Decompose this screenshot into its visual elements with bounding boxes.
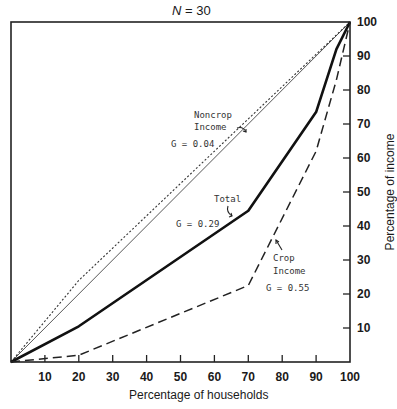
y-tick-label: 30 <box>357 254 370 266</box>
crop-gini: G = 0.55 <box>266 283 309 293</box>
x-tick-label: 10 <box>30 370 60 384</box>
y-tick-label: 60 <box>357 152 370 164</box>
x-tick-label: 80 <box>267 370 297 384</box>
series-lines <box>11 22 350 362</box>
y-tick-label: 20 <box>357 288 370 300</box>
y-tick-label: 70 <box>357 118 370 130</box>
x-tick-label: 70 <box>233 370 263 384</box>
crop-label-line1: Crop <box>273 253 295 263</box>
y-tick-label: 90 <box>357 50 370 62</box>
x-tick-label: 30 <box>98 370 128 384</box>
y-tick-label: 40 <box>357 220 370 232</box>
x-tick-label: 50 <box>166 370 196 384</box>
y-tick-label: 50 <box>357 186 370 198</box>
y-tick-label: 80 <box>357 84 370 96</box>
y-tick-label: 10 <box>357 322 370 334</box>
total-gini: G = 0.29 <box>176 219 219 229</box>
noncrop-label-line1: Noncrop <box>194 110 232 120</box>
total-label: Total <box>214 194 241 204</box>
y-axis-label: Percentage of income <box>383 134 397 251</box>
series-equality-line <box>11 22 350 362</box>
noncrop-gini: G = 0.04 <box>171 139 214 149</box>
x-tick-label: 60 <box>199 370 229 384</box>
crop-label-line2: Income <box>273 266 306 276</box>
axis-ticks <box>45 56 350 362</box>
x-tick-label: 20 <box>64 370 94 384</box>
x-tick-label: 100 <box>335 370 365 384</box>
chart-title: N = 30 <box>172 3 211 18</box>
x-axis-label: Percentage of households <box>129 388 268 402</box>
y-tick-label: 100 <box>357 16 377 28</box>
noncrop-label-line2: Income <box>194 122 227 132</box>
x-tick-label: 90 <box>301 370 331 384</box>
annotation-arrows <box>228 128 283 251</box>
x-tick-label: 40 <box>132 370 162 384</box>
